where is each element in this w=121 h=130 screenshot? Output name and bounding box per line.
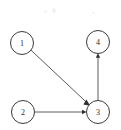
edge-2-to-3-arrowhead	[82, 110, 87, 114]
scan-artifact	[44, 10, 47, 13]
edge-2-to-3	[35, 110, 87, 114]
node-1[interactable]: 1	[11, 32, 34, 55]
node-2-label: 2	[21, 108, 25, 117]
node-4[interactable]: 4	[87, 31, 110, 54]
node-4-label: 4	[96, 38, 100, 47]
node-3[interactable]: 3	[87, 101, 110, 124]
scan-artifact	[52, 8, 56, 13]
graph-figure: 1 4 2 3	[0, 0, 121, 130]
edge-1-to-3-line	[31, 50, 88, 104]
edge-1-to-3	[31, 50, 90, 106]
node-1-label: 1	[20, 39, 24, 48]
node-3-label: 3	[96, 108, 100, 117]
scan-artifact	[92, 12, 95, 14]
node-2[interactable]: 2	[12, 101, 35, 124]
graph-canvas: 1 4 2 3	[0, 0, 121, 130]
edge-3-to-4	[96, 53, 100, 100]
